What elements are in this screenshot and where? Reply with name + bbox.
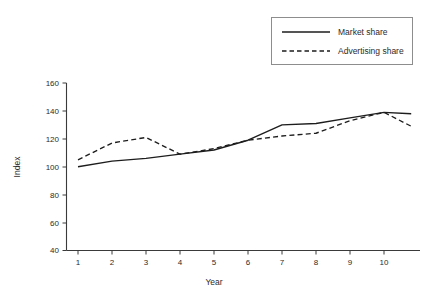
- axis-group: [67, 83, 421, 251]
- x-tick-label: 10: [380, 258, 389, 267]
- y-axis-title: Index: [12, 156, 22, 178]
- x-tick-label: 9: [348, 258, 353, 267]
- y-tick-label: 60: [50, 219, 59, 228]
- x-axis-title: Year: [205, 277, 222, 287]
- y-tick-label: 120: [46, 135, 60, 144]
- y-tick-label: 140: [46, 107, 60, 116]
- y-ticks: 160 140 120 100 80 60 40: [46, 79, 67, 255]
- y-tick-label: 40: [50, 246, 59, 255]
- x-tick-label: 4: [178, 258, 183, 267]
- legend-label: Market share: [338, 27, 388, 37]
- legend: Market share Advertising share: [272, 18, 413, 65]
- series-advertising-share: [78, 112, 411, 159]
- series-group: [78, 112, 411, 166]
- chart-canvas: 160 140 120 100 80 60 40 1 2 3 4: [0, 0, 442, 299]
- y-tick-label: 80: [50, 191, 59, 200]
- x-tick-label: 8: [314, 258, 319, 267]
- x-tick-label: 7: [280, 258, 285, 267]
- legend-box: [272, 18, 413, 65]
- y-tick-label: 160: [46, 79, 60, 88]
- x-tick-label: 3: [144, 258, 149, 267]
- line-chart: 160 140 120 100 80 60 40 1 2 3 4: [0, 0, 442, 299]
- x-ticks: 1 2 3 4 5 6 7 8 9 10: [76, 251, 389, 267]
- y-tick-label: 100: [46, 163, 60, 172]
- x-tick-label: 6: [246, 258, 251, 267]
- x-tick-label: 1: [76, 258, 81, 267]
- x-tick-label: 2: [110, 258, 115, 267]
- legend-label: Advertising share: [338, 46, 404, 56]
- series-market-share: [78, 112, 411, 166]
- x-tick-label: 5: [212, 258, 217, 267]
